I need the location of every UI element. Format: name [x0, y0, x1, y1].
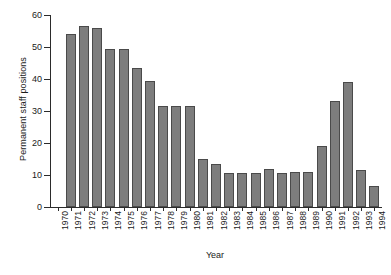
x-tick-mark [176, 207, 177, 211]
y-tick-label: 20 [2, 139, 42, 148]
x-tick-label: 1978 [167, 211, 176, 245]
bar [330, 101, 340, 207]
x-tick-label: 1979 [180, 211, 189, 245]
x-tick-label: 1982 [220, 211, 229, 245]
x-tick-label: 1993 [365, 211, 374, 245]
bar-chart: Permanent staff positions 0102030405060 … [0, 0, 391, 275]
x-tick-mark [295, 207, 296, 211]
y-tick-mark [44, 175, 50, 176]
x-tick-mark [322, 207, 323, 211]
x-tick-label: 1989 [312, 211, 321, 245]
x-tick-mark [58, 207, 59, 211]
x-tick-label: 1991 [338, 211, 347, 245]
y-tick-label: 0 [2, 203, 42, 212]
x-tick-label: 1983 [233, 211, 242, 245]
x-tick-mark [374, 207, 375, 211]
x-tick-mark [269, 207, 270, 211]
y-tick-label: 30 [2, 107, 42, 116]
x-tick-mark [71, 207, 72, 211]
x-tick-label: 1976 [140, 211, 149, 245]
x-tick-label: 1970 [61, 211, 70, 245]
y-tick-label: 10 [2, 171, 42, 180]
y-tick-mark [44, 111, 50, 112]
bar [66, 34, 76, 207]
x-tick-label: 1977 [154, 211, 163, 245]
bar [277, 173, 287, 207]
bar [356, 170, 366, 207]
y-tick-mark [44, 143, 50, 144]
bar [369, 186, 379, 207]
x-tick-label: 1985 [259, 211, 268, 245]
plot-area [51, 15, 381, 207]
x-tick-label: 1990 [325, 211, 334, 245]
bar [158, 106, 168, 207]
bar [171, 106, 181, 207]
bar [92, 28, 102, 207]
bar [185, 106, 195, 207]
bar [290, 172, 300, 207]
x-tick-mark [203, 207, 204, 211]
x-tick-mark [282, 207, 283, 211]
x-tick-mark [348, 207, 349, 211]
x-tick-mark [137, 207, 138, 211]
bar [251, 173, 261, 207]
x-tick-label: 1975 [127, 211, 136, 245]
bar [343, 82, 353, 207]
x-tick-mark [335, 207, 336, 211]
y-tick-label: 40 [2, 75, 42, 84]
bar [317, 146, 327, 207]
bar [224, 173, 234, 207]
x-tick-label: 1986 [272, 211, 281, 245]
bar [132, 68, 142, 207]
bar [237, 173, 247, 207]
x-tick-label: 1973 [101, 211, 110, 245]
x-tick-mark [97, 207, 98, 211]
bar [211, 164, 221, 207]
y-tick-mark [44, 79, 50, 80]
x-tick-label: 1974 [114, 211, 123, 245]
bar [303, 172, 313, 207]
bar [119, 49, 129, 207]
x-tick-mark [361, 207, 362, 211]
x-tick-label: 1984 [246, 211, 255, 245]
bar [264, 169, 274, 207]
bar [198, 159, 208, 207]
x-tick-mark [229, 207, 230, 211]
y-tick-mark [44, 207, 50, 208]
bar [145, 81, 155, 207]
x-tick-label: 1992 [352, 211, 361, 245]
bar [79, 26, 89, 207]
y-tick-mark [44, 15, 50, 16]
x-tick-label: 1987 [286, 211, 295, 245]
x-tick-label: 1994 [378, 211, 387, 245]
x-tick-mark [110, 207, 111, 211]
x-tick-mark [150, 207, 151, 211]
x-tick-mark [216, 207, 217, 211]
x-tick-label: 1971 [74, 211, 83, 245]
x-tick-mark [163, 207, 164, 211]
x-tick-label: 1980 [193, 211, 202, 245]
x-tick-label: 1981 [206, 211, 215, 245]
x-tick-mark [124, 207, 125, 211]
y-tick-mark [44, 47, 50, 48]
x-tick-mark [84, 207, 85, 211]
x-tick-label: 1972 [88, 211, 97, 245]
x-tick-label: 1988 [299, 211, 308, 245]
y-tick-label: 50 [2, 43, 42, 52]
y-tick-label: 60 [2, 11, 42, 20]
x-tick-mark [190, 207, 191, 211]
bar [105, 49, 115, 207]
x-tick-mark [308, 207, 309, 211]
x-tick-mark [256, 207, 257, 211]
x-tick-mark [242, 207, 243, 211]
x-axis-title: Year [46, 250, 384, 260]
